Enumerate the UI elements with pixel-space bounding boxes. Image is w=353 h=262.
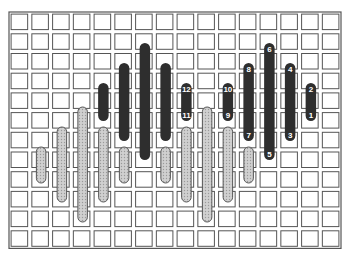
- grid-cell: [322, 93, 339, 109]
- dark-stitch: [285, 63, 296, 141]
- grid-cell: [198, 231, 215, 247]
- grid-cell: [53, 34, 70, 50]
- grid-cell: [239, 191, 256, 207]
- grid-cell: [94, 231, 111, 247]
- grid-cell: [219, 14, 236, 30]
- grid-cell: [302, 34, 319, 50]
- grid-cell: [177, 211, 194, 227]
- grid-cell: [11, 132, 28, 148]
- grid-cell: [11, 73, 28, 89]
- grid-cell: [322, 211, 339, 227]
- grid-cell: [73, 73, 90, 89]
- light-stitch: [36, 147, 46, 183]
- grid-cell: [177, 54, 194, 70]
- grid-cell: [32, 34, 49, 50]
- grid-cell: [198, 93, 215, 109]
- light-stitch: [119, 147, 129, 183]
- stitch-diagram: 121110987654321: [0, 0, 353, 262]
- grid-cell: [115, 191, 132, 207]
- grid-cell: [302, 231, 319, 247]
- grid-cell: [322, 34, 339, 50]
- grid-cell: [219, 34, 236, 50]
- grid-cell: [32, 211, 49, 227]
- grid-cell: [94, 34, 111, 50]
- grid-cell: [53, 73, 70, 89]
- dark-stitch: [119, 63, 130, 141]
- grid-cell: [302, 14, 319, 30]
- grid-cell: [11, 14, 28, 30]
- grid-cell: [53, 14, 70, 30]
- grid-cell: [322, 73, 339, 89]
- grid-cell: [156, 34, 173, 50]
- grid-cell: [53, 93, 70, 109]
- grid-cell: [94, 54, 111, 70]
- grid-cell: [260, 191, 277, 207]
- stitch-number: 11: [182, 111, 191, 120]
- grid-cell: [156, 231, 173, 247]
- grid-cell: [32, 54, 49, 70]
- dark-stitch: [140, 43, 151, 160]
- grid-cell: [177, 231, 194, 247]
- light-stitch: [78, 107, 88, 222]
- grid-cell: [322, 152, 339, 168]
- light-stitch: [202, 107, 212, 222]
- grid-cell: [260, 211, 277, 227]
- stitch-number: 8: [246, 65, 251, 74]
- grid-cell: [260, 231, 277, 247]
- dark-stitch: [160, 63, 171, 141]
- stitch-number: 6: [267, 45, 272, 54]
- grid-cell: [11, 172, 28, 188]
- grid-cell: [94, 211, 111, 227]
- grid-cell: [281, 231, 298, 247]
- grid-cell: [115, 211, 132, 227]
- grid-cell: [53, 211, 70, 227]
- grid-cell: [239, 34, 256, 50]
- stitch-number: 4: [288, 65, 293, 74]
- stitch-number: 1: [309, 111, 314, 120]
- grid-cell: [281, 172, 298, 188]
- grid-cell: [239, 14, 256, 30]
- grid-cell: [281, 191, 298, 207]
- grid-cell: [219, 211, 236, 227]
- grid-cell: [156, 211, 173, 227]
- stitch-number: 2: [309, 85, 314, 94]
- light-stitch: [99, 127, 109, 202]
- grid-cell: [136, 231, 153, 247]
- grid-cell: [322, 132, 339, 148]
- light-stitch: [161, 147, 171, 183]
- grid-cell: [73, 54, 90, 70]
- grid-cell: [11, 54, 28, 70]
- grid-cell: [11, 211, 28, 227]
- grid-cell: [11, 231, 28, 247]
- grid-cell: [136, 191, 153, 207]
- grid-cell: [136, 14, 153, 30]
- grid-cell: [198, 14, 215, 30]
- grid-cell: [281, 152, 298, 168]
- grid-cell: [136, 172, 153, 188]
- grid-cell: [322, 14, 339, 30]
- grid-cell: [322, 113, 339, 129]
- light-stitch: [244, 147, 254, 183]
- grid-cell: [302, 54, 319, 70]
- grid-cell: [11, 113, 28, 129]
- grid-cell: [260, 172, 277, 188]
- light-stitch: [182, 127, 192, 202]
- stitch-number: 3: [288, 131, 293, 140]
- dark-stitch: [264, 43, 275, 160]
- grid-cell: [11, 34, 28, 50]
- grid-cell: [53, 113, 70, 129]
- grid-cell: [32, 113, 49, 129]
- grid-cell: [73, 34, 90, 50]
- grid-cell: [239, 211, 256, 227]
- grid-cell: [302, 211, 319, 227]
- grid-cell: [73, 93, 90, 109]
- grid-cell: [322, 172, 339, 188]
- grid-cell: [115, 14, 132, 30]
- grid-cell: [219, 54, 236, 70]
- stitch-number: 10: [223, 85, 232, 94]
- grid-cell: [177, 14, 194, 30]
- grid-cell: [53, 231, 70, 247]
- grid-cell: [11, 191, 28, 207]
- grid-cell: [322, 231, 339, 247]
- grid-cell: [156, 191, 173, 207]
